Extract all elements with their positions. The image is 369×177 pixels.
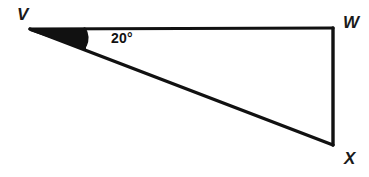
geometry-figure: V W X 20° xyxy=(0,0,369,177)
angle-measure-label: 20° xyxy=(111,31,133,45)
vertex-label-v: V xyxy=(17,6,28,23)
vertex-v-wedge xyxy=(30,28,86,50)
triangle-diagram-svg xyxy=(0,0,369,177)
vertex-label-x: X xyxy=(344,150,355,167)
vertex-label-w: W xyxy=(343,14,359,31)
